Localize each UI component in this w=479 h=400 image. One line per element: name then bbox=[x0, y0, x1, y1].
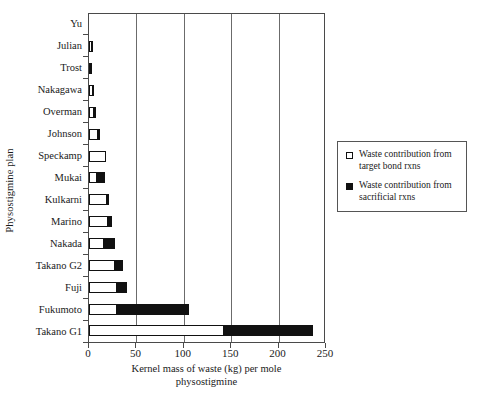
y-axis-title-text: Physostigmine plan bbox=[4, 148, 15, 232]
bar-row bbox=[89, 167, 324, 189]
legend-box: Waste contribution fromtarget bond rxnsW… bbox=[337, 141, 467, 212]
bar-row bbox=[89, 58, 324, 80]
bar-segment-target-bond bbox=[89, 260, 115, 271]
bar-segment-sacrificial bbox=[116, 304, 189, 315]
bar-segment-sacrificial bbox=[91, 41, 93, 52]
x-axis-tick-label: 50 bbox=[130, 347, 141, 359]
chart-figure: Physostigmine plan YuJulianTrostNakagawa… bbox=[0, 0, 479, 400]
bar-row bbox=[89, 189, 324, 211]
bar-row bbox=[89, 276, 324, 298]
legend-label-line2: sacrificial rxns bbox=[359, 192, 452, 204]
stacked-bar bbox=[89, 151, 106, 162]
legend-label-line1: Waste contribution from bbox=[359, 180, 452, 192]
x-axis-tick-label: 150 bbox=[222, 347, 239, 359]
bar-segment-sacrificial bbox=[223, 325, 313, 336]
bar-segment-sacrificial bbox=[96, 172, 105, 183]
y-axis-category-labels: YuJulianTrostNakagawaOvermanJohnsonSpeck… bbox=[18, 13, 86, 343]
y-axis-category-label: Trost bbox=[18, 57, 86, 79]
bar-segment-sacrificial bbox=[116, 282, 126, 293]
y-axis-category-label: Mukai bbox=[18, 167, 86, 189]
bar-row bbox=[89, 298, 324, 320]
y-axis-category-label: Speckamp bbox=[18, 145, 86, 167]
bar-row bbox=[89, 14, 324, 36]
legend-label-line1: Waste contribution from bbox=[359, 149, 452, 161]
bar-segment-sacrificial bbox=[97, 129, 101, 140]
legend-label: Waste contribution fromtarget bond rxns bbox=[359, 149, 452, 173]
bar-segment-target-bond bbox=[89, 194, 107, 205]
y-axis-category-label: Kulkarni bbox=[18, 189, 86, 211]
stacked-bar bbox=[89, 41, 93, 52]
stacked-bar bbox=[89, 238, 115, 249]
x-axis-tick-label: 200 bbox=[269, 347, 286, 359]
y-axis-category-label: Julian bbox=[18, 35, 86, 57]
x-axis-tick-label: 0 bbox=[85, 347, 91, 359]
bar-segment-target-bond bbox=[89, 151, 106, 162]
y-axis-category-label: Johnson bbox=[18, 123, 86, 145]
stacked-bar bbox=[89, 282, 127, 293]
bar-row bbox=[89, 80, 324, 102]
x-axis-tick-label: 100 bbox=[175, 347, 192, 359]
x-axis-title-line1: Kernel mass of waste (kg) per mole bbox=[88, 362, 325, 375]
stacked-bar bbox=[89, 194, 109, 205]
stacked-bar bbox=[89, 85, 94, 96]
bar-segment-sacrificial bbox=[92, 85, 94, 96]
y-axis-category-label: Nakagawa bbox=[18, 79, 86, 101]
filled-square-icon bbox=[346, 183, 353, 190]
stacked-bar bbox=[89, 304, 189, 315]
legend-label: Waste contribution fromsacrificial rxns bbox=[359, 180, 452, 204]
plot-area bbox=[88, 13, 325, 343]
y-axis-category-label: Fukumoto bbox=[18, 299, 86, 321]
bar-segment-sacrificial bbox=[93, 107, 96, 118]
bar-segment-target-bond bbox=[89, 216, 108, 227]
x-axis-title-line2: physostigmine bbox=[88, 375, 325, 388]
bar-segment-sacrificial bbox=[107, 216, 112, 227]
bar-row bbox=[89, 254, 324, 276]
bar-row bbox=[89, 101, 324, 123]
bar-segment-sacrificial bbox=[114, 260, 123, 271]
bar-row bbox=[89, 36, 324, 58]
bar-segment-sacrificial bbox=[106, 194, 109, 205]
stacked-bar bbox=[89, 63, 92, 74]
y-axis-category-label: Nakada bbox=[18, 233, 86, 255]
bar-segment-target-bond bbox=[89, 304, 117, 315]
x-axis-tick-label: 250 bbox=[317, 347, 334, 359]
y-axis-category-label: Marino bbox=[18, 211, 86, 233]
y-axis-category-label: Takano G1 bbox=[18, 321, 86, 343]
bar-segment-target-bond bbox=[89, 238, 104, 249]
stacked-bar bbox=[89, 107, 96, 118]
legend-item: Waste contribution fromtarget bond rxns bbox=[346, 149, 459, 173]
legend-label-line2: target bond rxns bbox=[359, 161, 452, 173]
y-axis-category-label: Yu bbox=[18, 13, 86, 35]
y-axis-category-label: Takano G2 bbox=[18, 255, 86, 277]
y-axis-title: Physostigmine plan bbox=[0, 100, 18, 280]
bar-row bbox=[89, 233, 324, 255]
bar-row bbox=[89, 211, 324, 233]
hollow-square-icon bbox=[346, 152, 353, 159]
x-axis-tick-labels: 050100150200250 bbox=[88, 347, 325, 361]
bar-segment-sacrificial bbox=[103, 238, 115, 249]
bar-segment-sacrificial bbox=[90, 63, 92, 74]
y-axis-category-label: Fuji bbox=[18, 277, 86, 299]
bar-segment-target-bond bbox=[89, 282, 117, 293]
bar-row bbox=[89, 320, 324, 342]
stacked-bar bbox=[89, 260, 123, 271]
stacked-bar bbox=[89, 325, 313, 336]
y-axis-category-label: Overman bbox=[18, 101, 86, 123]
bar-row bbox=[89, 145, 324, 167]
bars-layer bbox=[89, 14, 324, 342]
x-axis-title: Kernel mass of waste (kg) per mole physo… bbox=[88, 362, 325, 388]
bar-segment-target-bond bbox=[89, 325, 224, 336]
legend-item: Waste contribution fromsacrificial rxns bbox=[346, 180, 459, 204]
stacked-bar bbox=[89, 216, 112, 227]
bar-row bbox=[89, 123, 324, 145]
stacked-bar bbox=[89, 129, 100, 140]
stacked-bar bbox=[89, 172, 105, 183]
